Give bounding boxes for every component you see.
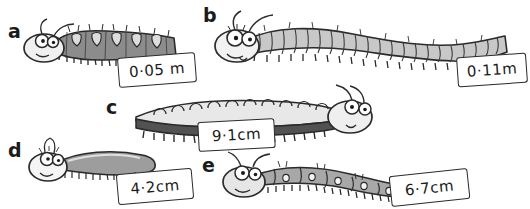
item-letter-d: d xyxy=(8,141,22,160)
measurement-label-b[interactable]: 0·11m xyxy=(456,53,528,88)
measurement-label-a[interactable]: 0·05 m xyxy=(117,52,197,88)
measurement-label-c[interactable]: 9·1cm xyxy=(197,118,275,152)
item-letter-c: c xyxy=(106,98,117,117)
worksheet-canvas: a xyxy=(0,0,530,209)
measurement-value-e: 6·7cm xyxy=(404,176,455,199)
measurement-value-a: 0·05 m xyxy=(128,59,185,81)
measurement-value-d: 4·2cm xyxy=(130,175,181,197)
item-letter-e: e xyxy=(202,156,215,175)
measurement-value-c: 9·1cm xyxy=(211,125,261,146)
item-letter-a: a xyxy=(8,22,21,41)
measurement-value-b: 0·11m xyxy=(466,59,518,80)
measurement-label-d[interactable]: 4·2cm xyxy=(116,168,194,206)
